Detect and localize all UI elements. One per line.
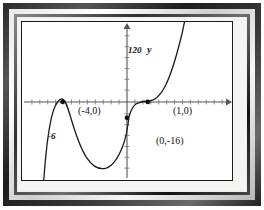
point-label-1-0: (1,0) <box>173 106 192 116</box>
y-axis-max-label: 120 <box>128 46 142 55</box>
point-label-neg4-0: (-4,0) <box>78 106 101 116</box>
coordinate-plane-svg <box>22 22 232 180</box>
x-axis-min-label: -6 <box>48 132 56 141</box>
plot-area: 120 -120 -6 6 y x (-4,0) (1,0) (0,-16) <box>21 21 233 181</box>
point-marker-neg4-0 <box>60 100 65 105</box>
graph-picture: 120 -120 -6 6 y x (-4,0) (1,0) (0,-16) <box>0 0 264 210</box>
point-marker-1-0 <box>145 100 150 105</box>
polynomial-curve <box>44 22 185 180</box>
y-axis-name-label: y <box>147 45 151 55</box>
point-label-0-neg16: (0,-16) <box>156 136 184 146</box>
point-marker-0-neg16 <box>125 115 130 120</box>
x-axis <box>24 99 232 106</box>
